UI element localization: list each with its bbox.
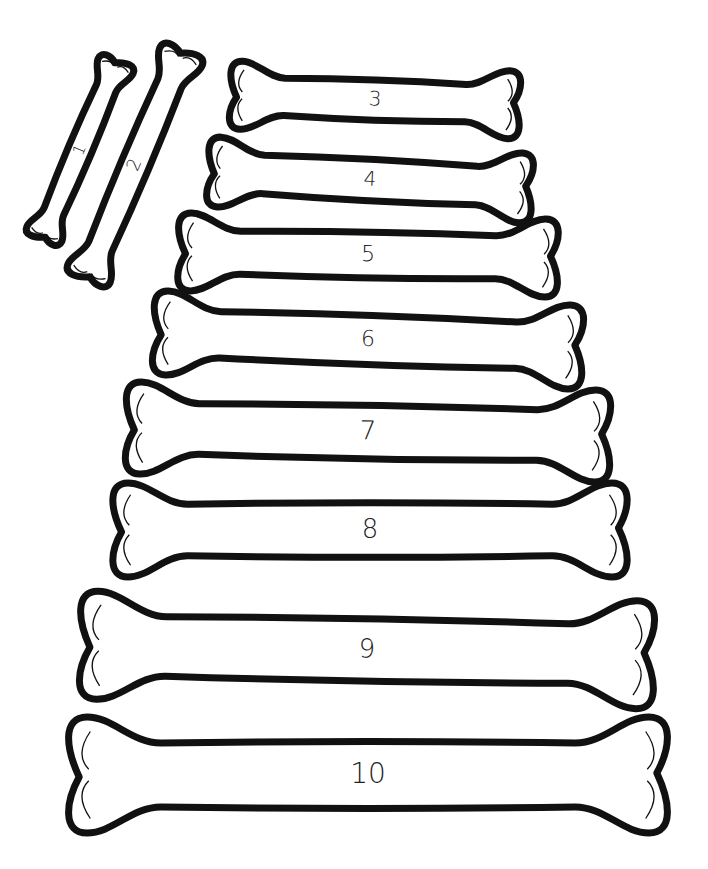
bone-number-label: 3 <box>368 86 382 110</box>
bone-number-label: 8 <box>362 514 379 544</box>
bones-group: 12345678910 <box>24 41 667 833</box>
bone-4: 4 <box>206 137 534 224</box>
bone-number-label: 9 <box>358 633 375 663</box>
bone-number-label: 4 <box>363 166 377 191</box>
bone-8: 8 <box>113 483 627 577</box>
bone-number-label: 7 <box>359 415 376 445</box>
bones-illustration: 12345678910 <box>0 0 708 869</box>
bone-7: 7 <box>125 382 611 482</box>
bone-number-label: 5 <box>361 241 375 266</box>
bone-10: 10 <box>69 717 668 833</box>
bone-number-label: 6 <box>361 326 376 351</box>
bone-5: 5 <box>178 213 559 298</box>
bone-9: 9 <box>79 591 655 709</box>
bone-6: 6 <box>152 291 584 390</box>
bone-3: 3 <box>229 61 521 139</box>
bone-number-label: 10 <box>350 757 386 790</box>
